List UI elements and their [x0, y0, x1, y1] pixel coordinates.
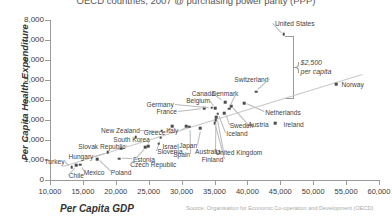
point-label: Poland [111, 169, 132, 176]
data-point[interactable] [96, 158, 99, 161]
point-label: Greece [144, 129, 166, 136]
point-label: Italy [166, 127, 178, 134]
data-point[interactable] [243, 102, 246, 105]
x-axis-tick [182, 180, 183, 185]
x-axis-tick [215, 180, 216, 185]
x-axis-label: Per Capita GDP [60, 203, 134, 214]
y-axis-tick-label: 5,000 [0, 75, 44, 84]
data-point[interactable] [75, 164, 78, 167]
data-point[interactable] [199, 127, 202, 130]
brace-annotation-unit: per capita [301, 67, 332, 76]
point-label: Norway [341, 81, 363, 88]
point-label: Switzerland [234, 76, 268, 83]
point-label: Hungary [68, 153, 93, 160]
point-label: Netherlands [265, 109, 301, 116]
data-point[interactable] [188, 126, 191, 129]
chart-title: OECD countries, 2007 @ purchasing power … [0, 0, 392, 6]
data-point[interactable] [215, 116, 218, 119]
y-axis-tick-label: 7,000 [0, 35, 44, 44]
y-axis-tick-label: 2,000 [0, 135, 44, 144]
data-point[interactable] [185, 125, 188, 128]
data-point[interactable] [228, 108, 231, 111]
y-axis-tick-label: 0 [0, 175, 44, 184]
data-point[interactable] [157, 142, 160, 145]
point-label: Austria [248, 120, 269, 127]
x-axis-tick-label: 10,000 [39, 187, 62, 196]
brace-annotation-amount: $2,500 [301, 58, 332, 67]
y-axis-tick-label: 8,000 [0, 15, 44, 24]
point-label: Ireland [284, 120, 304, 127]
x-axis-tick [247, 180, 248, 185]
x-axis-tick-label: 45,000 [269, 187, 292, 196]
data-point[interactable] [159, 137, 162, 140]
x-axis-tick-label: 15,000 [71, 187, 94, 196]
x-axis-tick-label: 20,000 [104, 187, 127, 196]
x-axis-tick-label: 50,000 [302, 187, 325, 196]
x-axis-tick-label: 60,000 [368, 187, 391, 196]
x-axis-tick-label: 25,000 [137, 187, 160, 196]
point-label: Turkey [45, 157, 65, 164]
data-point[interactable] [214, 107, 217, 110]
point-label: Belgium [186, 97, 210, 104]
data-point[interactable] [216, 112, 219, 115]
data-point[interactable] [118, 157, 121, 160]
point-label: South Korea [113, 135, 150, 142]
point-label: Israel [163, 143, 179, 150]
point-label: United States [275, 19, 315, 26]
label-leader-line [122, 158, 132, 159]
x-axis-tick [83, 180, 84, 185]
x-axis-tick [346, 180, 347, 185]
data-point[interactable] [79, 164, 82, 167]
data-point[interactable] [335, 83, 338, 86]
data-point[interactable] [107, 151, 110, 154]
data-point[interactable] [147, 145, 150, 148]
point-label: France [156, 108, 177, 115]
x-axis-tick [116, 180, 117, 185]
data-point[interactable] [274, 122, 277, 125]
x-axis-tick [149, 180, 150, 185]
point-label: Australia [195, 147, 221, 154]
point-label: Mexico [84, 168, 105, 175]
data-point[interactable] [255, 90, 258, 93]
x-axis-tick [313, 180, 314, 185]
point-label: Spain [173, 151, 190, 158]
x-axis-tick-label: 35,000 [203, 187, 226, 196]
data-point[interactable] [224, 101, 227, 104]
y-axis-tick-label: 3,000 [0, 115, 44, 124]
x-axis-tick-label: 55,000 [335, 187, 358, 196]
x-axis-tick [379, 180, 380, 185]
y-axis-tick-label: 1,000 [0, 155, 44, 164]
x-axis-tick [50, 180, 51, 185]
x-axis-tick [280, 180, 281, 185]
data-point[interactable] [211, 106, 214, 109]
point-label: Finland [202, 156, 224, 163]
brace-annotation: $2,500 per capita [301, 58, 332, 76]
data-point[interactable] [282, 33, 285, 36]
x-axis-tick-label: 30,000 [170, 187, 193, 196]
point-label: Czech Republic [130, 161, 176, 168]
point-label: Slovak Republic [78, 142, 125, 149]
source-note: Source: Organisation for Economic Co-ope… [186, 205, 373, 211]
y-axis-tick-label: 4,000 [0, 95, 44, 104]
y-axis-tick-label: 6,000 [0, 55, 44, 64]
point-label: New Zealand [101, 126, 140, 133]
point-label: Germany [147, 101, 174, 108]
data-point[interactable] [134, 136, 137, 139]
point-label: Iceland [226, 130, 247, 137]
data-point[interactable] [223, 112, 226, 115]
x-axis-tick-label: 40,000 [236, 187, 259, 196]
